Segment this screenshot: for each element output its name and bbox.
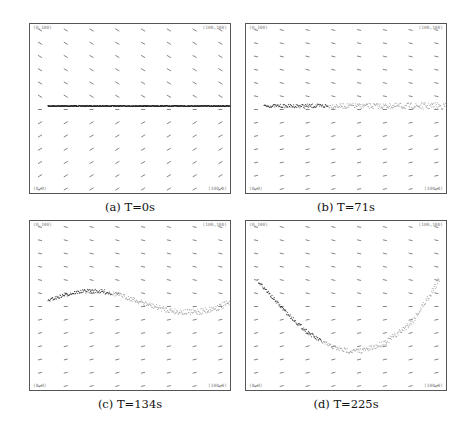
vector-field-a <box>30 24 232 195</box>
caption-c: (c) T=134s <box>30 397 230 411</box>
corner-label-bl: (0,0) <box>33 187 47 192</box>
corner-label-tl: (0,100) <box>249 26 268 31</box>
corner-label-tr: (100,100) <box>203 26 227 31</box>
corner-label-tr: (100,100) <box>419 26 443 31</box>
panel-c: (0,100) (100,100) (0,0) (100,0) <box>29 220 231 391</box>
caption-d: (d) T=225s <box>246 397 446 411</box>
caption-a: (a) T=0s <box>30 200 230 214</box>
corner-label-tr: (100,100) <box>203 223 227 228</box>
vector-field-d <box>246 221 448 392</box>
caption-b: (b) T=71s <box>246 200 446 214</box>
corner-label-br: (100,0) <box>424 187 443 192</box>
panel-d: (0,100) (100,100) (0,0) (100,0) <box>245 220 447 391</box>
corner-label-tl: (0,100) <box>249 223 268 228</box>
corner-label-bl: (0,0) <box>249 187 263 192</box>
corner-label-tl: (0,100) <box>33 223 52 228</box>
vector-field-c <box>30 221 232 392</box>
corner-label-tl: (0,100) <box>33 26 52 31</box>
corner-label-br: (100,0) <box>208 187 227 192</box>
panel-a: (0,100) (100,100) (0,0) (100,0) <box>29 23 231 194</box>
corner-label-bl: (0,0) <box>33 384 47 389</box>
vector-field-b <box>246 24 448 195</box>
corner-label-br: (100,0) <box>208 384 227 389</box>
panel-b: (0,100) (100,100) (0,0) (100,0) <box>245 23 447 194</box>
corner-label-bl: (0,0) <box>249 384 263 389</box>
corner-label-tr: (100,100) <box>419 223 443 228</box>
corner-label-br: (100,0) <box>424 384 443 389</box>
